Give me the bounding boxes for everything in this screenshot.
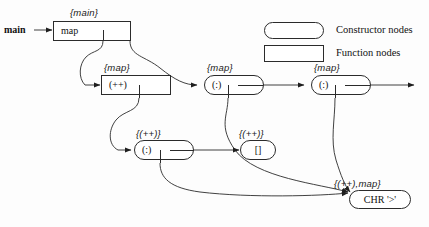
port-plus-bottom: [139, 85, 140, 98]
edge-plus-to-cons3: [110, 98, 139, 150]
node-label-nil: []: [241, 145, 275, 155]
edge-map-to-plus: [80, 41, 103, 85]
node-map[interactable]: map: [53, 21, 131, 41]
node-tag-nil: {(++)}: [239, 128, 264, 139]
node-label-chr: CHR '>': [350, 195, 410, 205]
legend-label-constructor: Constructor nodes: [336, 24, 413, 35]
node-tag-cons2: {map}: [314, 62, 340, 73]
node-tag-map: {main}: [70, 7, 98, 18]
port-cons2-right: [345, 85, 370, 86]
legend-swatch-function: [264, 45, 324, 62]
node-nil[interactable]: []: [240, 140, 276, 160]
port-map-right: [130, 30, 131, 41]
node-label-map: map: [54, 26, 78, 36]
node-tag-cons3: {(++)}: [136, 128, 161, 139]
port-cons1-bottom: [228, 85, 229, 98]
node-tag-cons1: {map}: [207, 62, 233, 73]
port-cons1-right: [238, 85, 263, 86]
node-label-cons3: (:): [135, 145, 151, 155]
node-tag-plus: {map}: [104, 62, 130, 73]
port-cons2-bottom: [335, 85, 336, 98]
edge-cons3-to-chr: [160, 163, 348, 196]
port-cons3-bottom: [160, 150, 161, 163]
node-chr[interactable]: CHR '>': [349, 190, 411, 209]
entry-label-main: main: [4, 24, 26, 35]
node-label-cons2: (:): [312, 80, 328, 90]
legend-label-function: Function nodes: [336, 47, 400, 58]
node-label-cons1: (:): [205, 80, 221, 90]
node-tag-chr: {(++),map}: [334, 178, 381, 189]
graph-reduction-diagram: main {main} map {map} (++) {map} (:) {ma…: [0, 0, 429, 227]
port-map-left: [103, 30, 104, 41]
node-plus[interactable]: (++): [101, 75, 171, 95]
port-cons3-right: [170, 150, 194, 151]
legend-swatch-constructor: [264, 22, 324, 39]
node-label-plus: (++): [102, 80, 127, 90]
